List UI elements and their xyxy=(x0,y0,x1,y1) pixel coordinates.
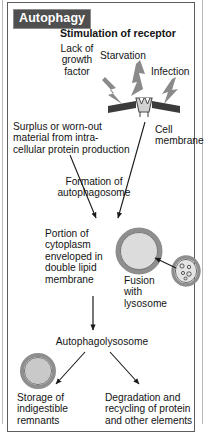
stimulus-bolt-infection xyxy=(162,77,178,104)
arrow-to-degradation xyxy=(110,352,139,384)
autophagosome-icon xyxy=(118,230,160,272)
label-portion-of-cytoplasm: Portion of cytoplasm enveloped in double… xyxy=(45,228,113,285)
figure-title-banner: Autophagy xyxy=(13,9,91,29)
label-infection: Infection xyxy=(151,66,209,77)
stimulus-bolt-growth-factor xyxy=(102,77,122,104)
label-autophagolysosome: Autophagolysosome xyxy=(42,336,162,347)
arrow-to-storage xyxy=(56,352,85,384)
label-degradation: Degradation and recycling of protein and… xyxy=(105,392,203,426)
label-fusion-with-lysosome: Fusion with lysosome xyxy=(124,275,164,309)
lysosome-icon xyxy=(173,257,199,285)
membrane-receptor-icon xyxy=(136,98,152,117)
label-lack-of-growth-factor: Lack of growth factor xyxy=(55,43,99,77)
label-formation: Formation of autophagosome xyxy=(46,176,142,199)
label-storage-remnants: Storage of indigestible remnants xyxy=(17,392,99,426)
residual-body-icon xyxy=(22,355,54,387)
label-stimulation: Stimulation of receptor xyxy=(60,28,206,39)
label-cell-membrane: Cell membrane xyxy=(155,124,205,147)
stimulus-bolt-starvation xyxy=(131,60,145,96)
label-starvation: Starvation xyxy=(100,50,166,61)
label-surplus-material: Surplus or worn-out material from intra-… xyxy=(13,121,133,155)
